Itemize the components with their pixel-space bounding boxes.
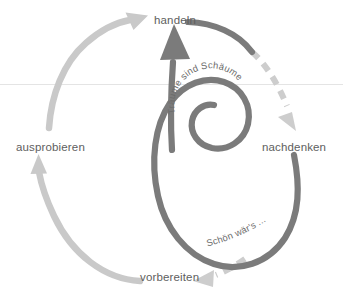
annotation-schoen: Schön wär's ... xyxy=(205,213,267,248)
node-label-vorbereiten: vorbereiten xyxy=(140,271,199,283)
edge-handeln-nachdenken xyxy=(252,52,296,131)
edge-vorbereiten-ausprobieren xyxy=(31,154,141,281)
node-label-nachdenken: nachdenken xyxy=(262,141,326,153)
edge-spiral-outer-top xyxy=(188,22,252,52)
diagram-canvas: Träume sind Schäume Schön wär's ... hand… xyxy=(0,0,343,302)
node-label-handeln: handeln xyxy=(154,14,196,26)
node-label-ausprobieren: ausprobieren xyxy=(16,141,85,153)
edge-ausprobieren-handeln xyxy=(49,13,148,129)
